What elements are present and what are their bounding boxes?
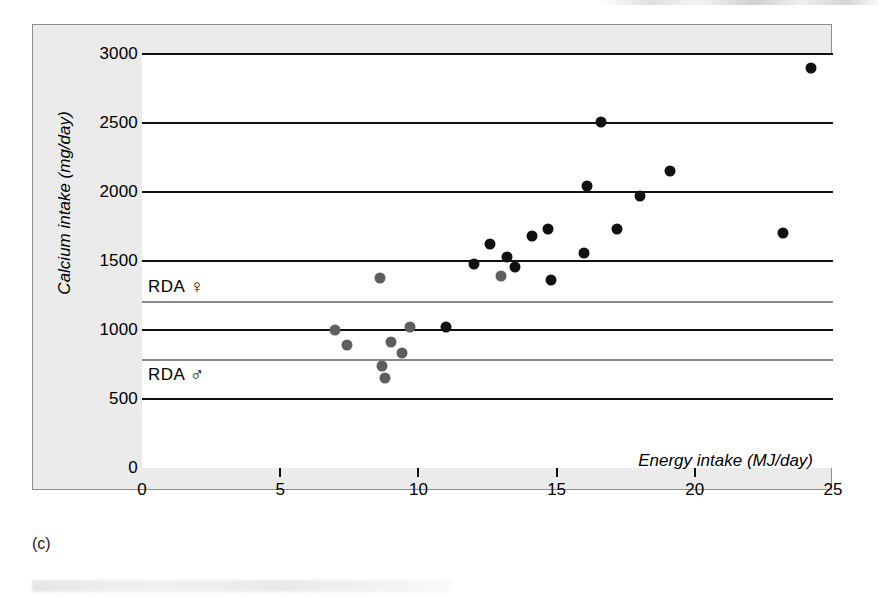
data-point [634, 191, 645, 202]
x-tick-label-5: 5 [275, 480, 284, 500]
rda-female-line [142, 301, 833, 303]
gridline-3000 [142, 53, 833, 55]
plot-area: RDA ♀RDA ♂ [142, 54, 833, 468]
x-tick-mark-5 [279, 468, 281, 477]
data-point [510, 261, 521, 272]
data-point [612, 224, 623, 235]
x-tick-mark-15 [556, 468, 558, 477]
x-tick-label-25: 25 [824, 480, 843, 500]
y-tick-label-2500: 2500 [68, 113, 138, 133]
x-tick-label-10: 10 [409, 480, 428, 500]
annotation-male-symbol: RDA ♂ [148, 364, 204, 386]
data-point [579, 247, 590, 258]
figure-caption: (c) [32, 535, 51, 553]
data-point [526, 231, 537, 242]
x-tick-label-15: 15 [547, 480, 566, 500]
page-text-remnant [32, 580, 452, 592]
male-symbol: ♂ [190, 364, 205, 385]
data-point [543, 224, 554, 235]
data-point [546, 275, 557, 286]
data-point [374, 272, 385, 283]
data-point [664, 166, 675, 177]
rda-text: RDA [148, 277, 184, 296]
y-tick-label-0: 0 [68, 458, 138, 478]
x-axis-title: Energy intake (MJ/day) [638, 451, 813, 471]
y-axis-ticks: 050010001500200025003000 [58, 25, 138, 491]
gridline-2000 [142, 191, 833, 193]
scan-artifact [600, 0, 879, 5]
y-tick-label-1000: 1000 [68, 320, 138, 340]
data-point [468, 258, 479, 269]
x-tick-label-0: 0 [137, 480, 146, 500]
female-symbol: ♀ [190, 276, 205, 297]
data-point [496, 271, 507, 282]
data-point [341, 340, 352, 351]
gridline-2500 [142, 122, 833, 124]
gridline-1500 [142, 260, 833, 262]
data-point [501, 251, 512, 262]
y-tick-label-2000: 2000 [68, 182, 138, 202]
rda-text: RDA [148, 365, 184, 384]
chart-figure: Calcium intake (mg/day) 0500100015002000… [32, 24, 832, 490]
data-point [805, 62, 816, 73]
data-point [385, 337, 396, 348]
data-point [595, 116, 606, 127]
annotation-female-symbol: RDA ♀ [148, 276, 204, 298]
y-tick-label-3000: 3000 [68, 44, 138, 64]
x-tick-mark-10 [417, 468, 419, 477]
data-point [582, 181, 593, 192]
data-point [330, 325, 341, 336]
y-tick-label-1500: 1500 [68, 251, 138, 271]
rda-male-line [142, 359, 833, 361]
data-point [485, 239, 496, 250]
gridline-1000 [142, 329, 833, 331]
data-point [377, 360, 388, 371]
data-point [380, 373, 391, 384]
data-point [405, 322, 416, 333]
data-point [778, 228, 789, 239]
y-tick-label-500: 500 [68, 389, 138, 409]
data-point [396, 348, 407, 359]
data-point [441, 322, 452, 333]
x-tick-label-20: 20 [685, 480, 704, 500]
gridline-500 [142, 398, 833, 400]
